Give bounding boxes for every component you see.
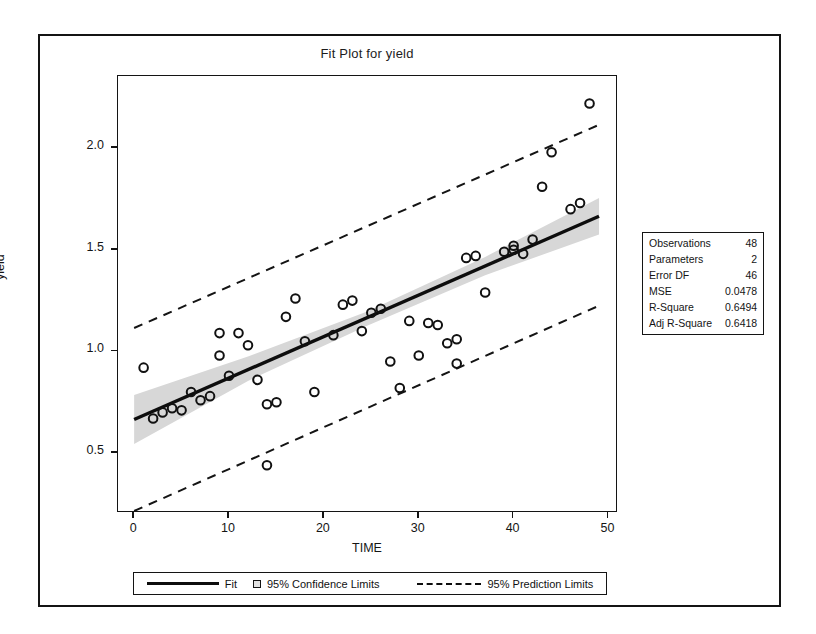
stats-value: 48: [722, 235, 760, 251]
prediction-line-swatch-icon: [417, 583, 481, 585]
x-axis-title: TIME: [117, 541, 617, 555]
x-tick-mark: [417, 512, 419, 518]
chart-legend: Fit 95% Confidence Limits 95% Prediction…: [133, 572, 607, 595]
y-tick-label: 1.0: [58, 341, 104, 355]
legend-item-fit: Fit: [147, 578, 237, 590]
scatter-point: [291, 294, 300, 303]
prediction-limit-upper: [134, 125, 599, 328]
stats-row: Observations48: [646, 235, 760, 251]
stats-label: MSE: [646, 283, 722, 299]
stats-value: 46: [722, 267, 760, 283]
x-tick-mark: [607, 512, 609, 518]
scatter-point: [414, 351, 423, 360]
fit-statistics-table: Observations48Parameters2Error DF46MSE0.…: [646, 235, 760, 332]
legend-item-prediction-limits: 95% Prediction Limits: [417, 578, 593, 590]
scatter-point: [395, 384, 404, 393]
scatter-point: [566, 205, 575, 214]
scatter-point: [481, 288, 490, 297]
y-tick-label: 1.5: [58, 240, 104, 254]
x-tick-label: 30: [398, 521, 438, 535]
stats-label: Error DF: [646, 267, 722, 283]
stats-label: Parameters: [646, 251, 722, 267]
scatter-point: [310, 388, 319, 397]
scatter-point: [405, 317, 414, 326]
legend-label-prediction: 95% Prediction Limits: [487, 578, 593, 590]
y-tick-mark: [111, 350, 117, 352]
y-tick-mark: [111, 248, 117, 250]
scatter-point: [471, 252, 480, 261]
stats-value: 0.6418: [722, 316, 760, 332]
scatter-point: [244, 341, 253, 350]
legend-label-confidence: 95% Confidence Limits: [267, 578, 380, 590]
x-tick-mark: [227, 512, 229, 518]
stats-row: MSE0.0478: [646, 283, 760, 299]
stats-row: Error DF46: [646, 267, 760, 283]
confidence-band-swatch-icon: [253, 580, 261, 588]
scatter-point: [462, 254, 471, 263]
scatter-point: [424, 319, 433, 328]
x-tick-label: 10: [208, 521, 248, 535]
legend-item-confidence-limits: 95% Confidence Limits: [253, 578, 380, 590]
stats-label: R-Square: [646, 300, 722, 316]
scatter-point: [433, 321, 442, 330]
fit-line-layer: [134, 216, 599, 419]
plot-canvas: [118, 76, 617, 512]
scatter-point: [234, 329, 243, 338]
stats-row: R-Square0.6494: [646, 300, 760, 316]
x-tick-label: 0: [113, 521, 153, 535]
x-tick-label: 40: [493, 521, 533, 535]
fit-line-swatch-icon: [147, 582, 219, 585]
fit-line: [134, 216, 599, 419]
scatter-point: [348, 296, 357, 305]
stats-value: 0.6494: [722, 300, 760, 316]
stats-label: Adj R-Square: [646, 316, 722, 332]
stats-row: Parameters2: [646, 251, 760, 267]
scatter-point: [452, 359, 461, 368]
scatter-point: [576, 199, 585, 208]
y-tick-label: 2.0: [58, 138, 104, 152]
scatter-point: [452, 335, 461, 344]
x-tick-mark: [132, 512, 134, 518]
scatter-point: [263, 461, 272, 470]
scatter-points-layer: [139, 99, 594, 469]
stats-label: Observations: [646, 235, 722, 251]
chart-title: Fit Plot for yield: [117, 46, 617, 61]
y-tick-label: 0.5: [58, 443, 104, 457]
x-tick-mark: [512, 512, 514, 518]
scatter-point: [538, 182, 547, 191]
scatter-point: [585, 99, 594, 108]
scatter-point: [139, 363, 148, 372]
scatter-point: [272, 398, 281, 407]
y-tick-mark: [111, 451, 117, 453]
fit-statistics-box: Observations48Parameters2Error DF46MSE0.…: [642, 232, 764, 335]
plot-area: [117, 75, 617, 512]
stats-value: 2: [722, 251, 760, 267]
confidence-band-layer: [134, 198, 599, 444]
scatter-point: [547, 148, 556, 157]
scatter-point: [386, 357, 395, 366]
stats-value: 0.0478: [722, 283, 760, 299]
y-axis-title: yield: [0, 254, 7, 280]
scatter-point: [443, 339, 452, 348]
prediction-limit-lower: [134, 306, 599, 511]
legend-label-fit: Fit: [225, 578, 237, 590]
scatter-point: [339, 300, 348, 309]
scatter-point: [215, 351, 224, 360]
x-tick-label: 50: [588, 521, 628, 535]
scatter-point: [282, 313, 291, 322]
x-tick-label: 20: [303, 521, 343, 535]
scatter-point: [253, 376, 262, 385]
scatter-point: [263, 400, 272, 409]
x-tick-mark: [322, 512, 324, 518]
y-tick-mark: [111, 146, 117, 148]
confidence-band: [134, 198, 599, 444]
stats-row: Adj R-Square0.6418: [646, 316, 760, 332]
scatter-point: [215, 329, 224, 338]
